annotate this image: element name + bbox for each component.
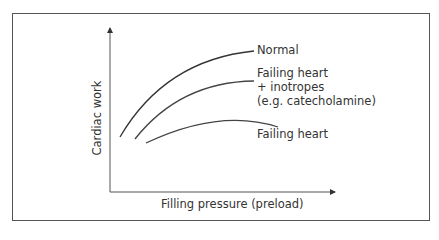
label-inotropes-3: (e.g. catecholamine) bbox=[257, 95, 376, 109]
label-inotropes-1: Failing heart bbox=[257, 67, 328, 81]
curve-normal bbox=[120, 51, 254, 137]
label-failing: Failing heart bbox=[257, 128, 328, 142]
label-inotropes-2: + inotropes bbox=[257, 81, 324, 95]
label-normal: Normal bbox=[257, 44, 299, 58]
x-axis-label: Filling pressure (preload) bbox=[161, 198, 304, 212]
y-axis-label: Cardiac work bbox=[90, 81, 104, 156]
curve-inotropes bbox=[135, 81, 254, 139]
